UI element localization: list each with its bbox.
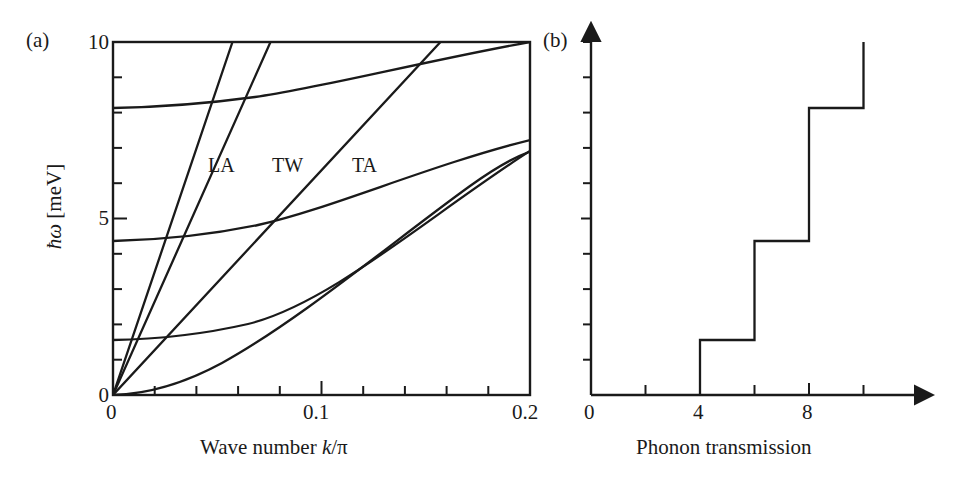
panel-a-xtick-0.1: 0.1 xyxy=(303,402,329,423)
panel-a-ytick-5: 5 xyxy=(85,208,109,229)
branch-label-TW: TW xyxy=(272,155,303,175)
curve-LA xyxy=(113,42,233,395)
curve-TA xyxy=(113,42,441,395)
panel-b-xtick-0: 0 xyxy=(584,402,595,423)
panel-b-y-ticks xyxy=(581,42,591,360)
panel-a-xtick-0: 0 xyxy=(106,402,117,423)
panel-a-y-axis-title-units: [meV] xyxy=(42,164,66,224)
panel-b-x-axis-title: Phonon transmission xyxy=(636,437,812,458)
panel-b-x-ticks xyxy=(646,383,864,395)
curve-subband-1 xyxy=(113,151,530,340)
panel-a-label: (a) xyxy=(26,30,49,51)
panel-a-y-axis-title-symbol: ħω xyxy=(42,224,66,249)
panel-a-y-axis-title: ħω [meV] xyxy=(44,137,65,277)
panel-b-xtick-8: 8 xyxy=(802,402,813,423)
branch-label-TA: TA xyxy=(352,155,377,175)
panel-a-frame xyxy=(113,42,530,395)
panel-a-x-axis-title-prefix: Wave number xyxy=(200,435,322,459)
panel-a-y-ticks xyxy=(113,42,127,395)
figure-root: (a) (b) 10 5 0 0 0.1 0.2 Wave number k/π… xyxy=(0,0,953,481)
panel-b-label: (b) xyxy=(543,30,568,51)
panel-b-plot xyxy=(581,40,916,395)
panel-b-xtick-4: 4 xyxy=(693,402,704,423)
panel-a-x-axis-title: Wave number k/π xyxy=(200,437,348,458)
curve-flexural xyxy=(113,152,530,396)
panel-a-ytick-10: 10 xyxy=(85,32,109,53)
panel-a-plot xyxy=(113,42,530,395)
curve-TW xyxy=(113,42,271,395)
curve-subband-2 xyxy=(113,140,530,241)
panel-a-x-axis-title-suffix: /π xyxy=(331,435,347,459)
panel-a-x-axis-title-symbol: k xyxy=(322,435,331,459)
panel-b-staircase xyxy=(700,42,864,395)
branch-label-LA: LA xyxy=(208,155,235,175)
panel-a-xtick-0.2: 0.2 xyxy=(512,402,538,423)
curve-subband-3 xyxy=(113,42,530,108)
